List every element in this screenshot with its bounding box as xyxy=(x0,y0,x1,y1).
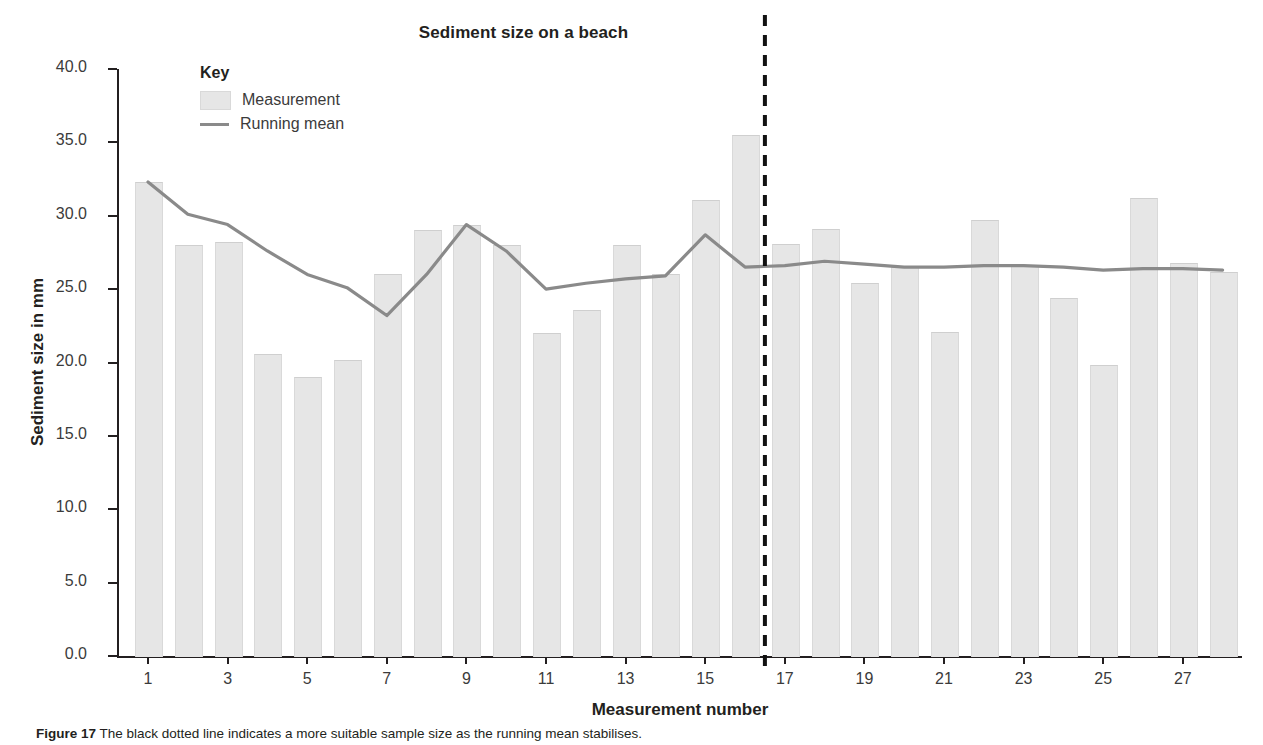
legend-item-measurement: Measurement xyxy=(200,88,344,112)
line-overlay xyxy=(117,60,1242,660)
x-tick-label: 21 xyxy=(924,670,964,688)
x-tick-label: 23 xyxy=(1004,670,1044,688)
y-tick xyxy=(108,362,117,364)
y-tick-label: 20.0 xyxy=(27,352,87,370)
x-tick-label: 1 xyxy=(128,670,168,688)
x-tick-label: 17 xyxy=(765,670,805,688)
y-tick-label: 40.0 xyxy=(27,58,87,76)
y-tick xyxy=(108,582,117,584)
legend-label-measurement: Measurement xyxy=(242,91,340,109)
x-tick-label: 11 xyxy=(526,670,566,688)
figure-caption-text: The black dotted line indicates a more s… xyxy=(100,726,643,741)
y-tick-label: 5.0 xyxy=(27,572,87,590)
legend-swatch-icon xyxy=(200,91,231,110)
legend: Key Measurement Running mean xyxy=(200,64,344,136)
y-tick-label: 10.0 xyxy=(27,498,87,516)
x-tick-label: 9 xyxy=(446,670,486,688)
x-tick-label: 13 xyxy=(606,670,646,688)
x-axis-title: Measurement number xyxy=(128,700,1232,720)
y-tick xyxy=(108,508,117,510)
running-mean-line xyxy=(148,182,1223,316)
y-tick-label: 15.0 xyxy=(27,425,87,443)
legend-label-running-mean: Running mean xyxy=(240,115,344,133)
x-tick-label: 7 xyxy=(367,670,407,688)
y-tick xyxy=(108,68,117,70)
y-tick xyxy=(108,141,117,143)
x-tick-label: 5 xyxy=(287,670,327,688)
y-tick-label: 30.0 xyxy=(27,205,87,223)
y-tick-label: 35.0 xyxy=(27,131,87,149)
plot-area: 0.05.010.015.020.025.030.035.040.0 13579… xyxy=(117,60,1242,660)
figure-root: Sediment size on a beach Sediment size i… xyxy=(0,0,1263,745)
x-tick-label: 27 xyxy=(1163,670,1203,688)
chart-title: Sediment size on a beach xyxy=(0,23,1155,43)
figure-caption-label: Figure 17 xyxy=(36,726,96,741)
y-tick xyxy=(108,655,117,657)
legend-line-icon xyxy=(200,123,229,126)
y-tick-label: 0.0 xyxy=(27,645,87,663)
legend-title: Key xyxy=(200,64,344,82)
y-tick xyxy=(108,435,117,437)
x-tick-label: 25 xyxy=(1083,670,1123,688)
figure-caption: Figure 17 The black dotted line indicate… xyxy=(36,726,1216,742)
x-tick-label: 3 xyxy=(208,670,248,688)
y-tick xyxy=(108,215,117,217)
legend-item-running-mean: Running mean xyxy=(200,112,344,136)
y-tick xyxy=(108,288,117,290)
y-tick-label: 25.0 xyxy=(27,278,87,296)
x-tick-label: 19 xyxy=(844,670,884,688)
x-tick-label: 15 xyxy=(685,670,725,688)
